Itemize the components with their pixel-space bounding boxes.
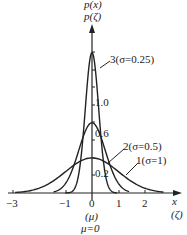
ylabel-bottom: p(ζ) bbox=[83, 10, 102, 23]
xtick-label-minus1: −1 bbox=[59, 197, 71, 209]
leader-line-2 bbox=[108, 149, 124, 163]
xlabel-top: x bbox=[171, 195, 177, 207]
xtick-label-1: 1 bbox=[116, 197, 122, 209]
normal-distribution-chart: 1.0 0.6 0.2 −3 −1 0 1 2 p(x) p(ζ) x (ζ) … bbox=[0, 0, 187, 235]
curve-label-2: 2(σ=0.5) bbox=[123, 140, 162, 153]
y-axis-arrow-icon bbox=[89, 24, 95, 33]
curve-label-1: 1(σ=1) bbox=[136, 154, 167, 167]
ytick-label-1.0: 1.0 bbox=[95, 96, 109, 108]
curve-label-3: 3(σ=0.25) bbox=[110, 53, 155, 66]
xlabel-bottom: (ζ) bbox=[171, 208, 183, 221]
leader-line-3 bbox=[100, 61, 110, 68]
ytick-label-0.6: 0.6 bbox=[95, 127, 109, 139]
xtick-label-minus3: −3 bbox=[6, 197, 18, 209]
xtick-label-0: 0 bbox=[89, 197, 95, 209]
xtick-label-2: 2 bbox=[142, 197, 148, 209]
mu-equals-label: μ=0 bbox=[80, 222, 100, 234]
ytick-label-0.2: 0.2 bbox=[95, 167, 109, 179]
